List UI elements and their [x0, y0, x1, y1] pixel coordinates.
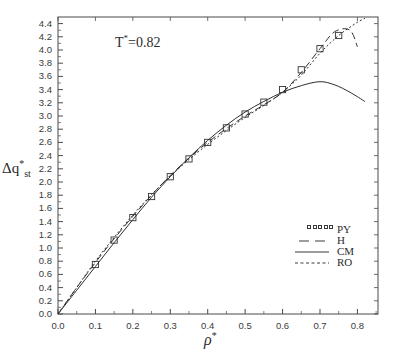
- y-tick-label: 4.2: [26, 31, 52, 42]
- y-tick-label: 2.6: [26, 136, 52, 147]
- y-tick-label: 1.8: [26, 189, 52, 200]
- temperature-annotation: T*=0.82: [115, 33, 160, 51]
- series-line-cm: [58, 82, 365, 314]
- legend-square-glyph: [313, 225, 317, 229]
- legend-square-glyph: [318, 225, 322, 229]
- y-tick-label: 3.4: [26, 84, 52, 95]
- x-tick-label: 0.2: [118, 320, 148, 331]
- y-tick-label: 1.2: [26, 229, 52, 240]
- y-axis-label-delta-q: Δq: [2, 160, 19, 176]
- legend-marker-ro: [291, 258, 333, 268]
- y-tick-label: 1.0: [26, 242, 52, 253]
- y-tick-label: 1.4: [26, 216, 52, 227]
- annotation-value: =0.82: [128, 35, 160, 50]
- data-series: [58, 18, 365, 314]
- x-axis-label: ρ*: [204, 330, 217, 349]
- x-axis-label-star: *: [212, 330, 217, 341]
- x-tick-label: 0.5: [230, 320, 260, 331]
- legend-marker-h: [291, 236, 333, 246]
- y-tick-label: 4.0: [26, 44, 52, 55]
- y-tick-label: 3.8: [26, 57, 52, 68]
- legend-square-glyph: [324, 225, 328, 229]
- y-tick-label: 0.0: [26, 308, 52, 319]
- legend-square-glyph: [307, 225, 311, 229]
- legend: PY H CM RO: [291, 224, 354, 268]
- x-tick-label: 0.8: [342, 320, 372, 331]
- x-tick-label: 0.7: [305, 320, 335, 331]
- series-line-ro: [58, 18, 365, 314]
- y-tick-label: 3.2: [26, 97, 52, 108]
- legend-label-ro: RO: [337, 257, 352, 268]
- y-tick-label: 3.6: [26, 70, 52, 81]
- legend-item-ro: RO: [291, 257, 354, 268]
- legend-marker-cm: [291, 247, 333, 257]
- x-tick-label: 0.3: [155, 320, 185, 331]
- axis-ticks: [58, 17, 378, 314]
- y-tick-label: 0.6: [26, 268, 52, 279]
- axes-frame: [58, 17, 378, 314]
- y-axis-label-subscript: st: [24, 168, 31, 179]
- y-tick-label: 4.4: [26, 18, 52, 29]
- series-line-h: [58, 29, 357, 314]
- plot-canvas: [0, 0, 396, 360]
- x-tick-label: 0.0: [43, 320, 73, 331]
- y-tick-label: 1.6: [26, 202, 52, 213]
- y-tick-label: 0.8: [26, 255, 52, 266]
- y-tick-label: 0.4: [26, 282, 52, 293]
- x-tick-label: 0.6: [268, 320, 298, 331]
- y-axis-label: Δq*st: [2, 158, 31, 179]
- y-tick-label: 2.8: [26, 123, 52, 134]
- annotation-t-symbol: T: [115, 35, 124, 50]
- y-tick-label: 0.2: [26, 295, 52, 306]
- y-tick-label: 3.0: [26, 110, 52, 121]
- legend-square-glyph: [329, 225, 333, 229]
- x-tick-label: 0.1: [80, 320, 110, 331]
- legend-marker-py: [291, 225, 333, 235]
- x-axis-label-rho: ρ: [204, 331, 212, 348]
- figure-container: 0.00.20.40.60.81.01.21.41.61.82.02.22.42…: [0, 0, 396, 360]
